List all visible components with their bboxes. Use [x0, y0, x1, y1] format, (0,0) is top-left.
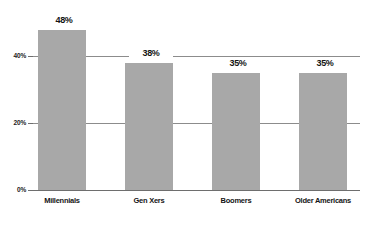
category-label-gen-xers: Gen Xers: [109, 196, 189, 205]
axis-baseline: [31, 190, 360, 191]
value-label-millennials: 48%: [42, 15, 86, 26]
category-label-millennials: Millennials: [22, 196, 102, 205]
value-label-gen-xers: 38%: [129, 48, 173, 59]
category-label-boomers: Boomers: [196, 196, 276, 205]
ytick-mark-40: [28, 56, 33, 57]
ytick-mark-20: [28, 123, 33, 124]
bar-boomers: [212, 73, 260, 190]
ytick-mark-0: [28, 190, 33, 191]
ytick-label-0: 0%: [0, 186, 26, 193]
bar-chart: 40% 20% 0% 48% 38% 35% 35% Millennials G…: [0, 0, 366, 226]
bar-millennials: [38, 30, 86, 190]
bar-older-americans: [299, 73, 347, 190]
value-label-older-americans: 35%: [303, 58, 347, 69]
ytick-label-20: 20%: [0, 119, 26, 126]
ytick-label-40: 40%: [0, 52, 26, 59]
bar-gen-xers: [125, 63, 173, 190]
category-label-older-americans: Older Americans: [283, 196, 363, 205]
plot-area: 40% 20% 0% 48% 38% 35% 35% Millennials G…: [0, 0, 366, 226]
value-label-boomers: 35%: [216, 58, 260, 69]
